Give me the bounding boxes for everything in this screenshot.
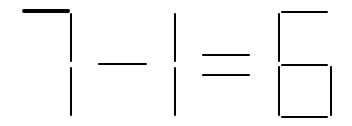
match-6-upper-left[interactable]	[278, 13, 280, 62]
match-6-top[interactable]	[281, 11, 328, 13]
match-minus[interactable]	[98, 63, 147, 65]
match-1-lower[interactable]	[174, 67, 176, 116]
match-6-middle[interactable]	[281, 64, 328, 66]
match-6-lower-right[interactable]	[330, 66, 332, 116]
match-7-upper-right[interactable]	[70, 13, 72, 62]
match-7-top[interactable]	[22, 9, 70, 13]
match-1-upper[interactable]	[174, 13, 176, 62]
match-equals-bottom[interactable]	[202, 74, 250, 76]
match-7-lower-right[interactable]	[70, 67, 72, 116]
match-equals-top[interactable]	[202, 54, 250, 56]
match-6-bottom[interactable]	[281, 116, 328, 118]
match-6-lower-left[interactable]	[278, 66, 280, 116]
